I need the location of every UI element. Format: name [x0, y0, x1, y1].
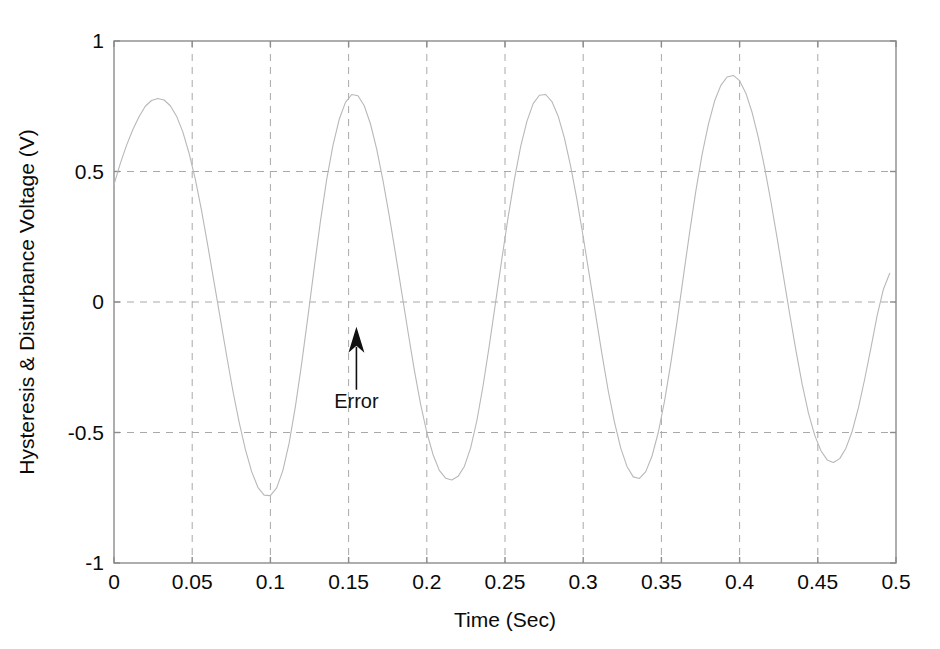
x-tick-labels: 00.050.10.150.20.250.30.350.40.450.5: [108, 570, 910, 593]
x-tick-label: 0.1: [256, 570, 285, 593]
x-tick-label: 0.35: [641, 570, 682, 593]
x-tick-label: 0.45: [797, 570, 838, 593]
y-tick-label: 0: [92, 290, 104, 313]
x-tick-label: 0.05: [172, 570, 213, 593]
x-axis-title: Time (Sec): [454, 608, 556, 631]
y-tick-label: 1: [92, 29, 104, 52]
y-tick-label: 0.5: [75, 160, 104, 183]
annotation-label-error: Error: [334, 390, 379, 412]
x-tick-label: 0.3: [569, 570, 598, 593]
y-tick-label: -1: [85, 551, 104, 574]
y-tick-labels: -1-0.500.51: [68, 29, 104, 574]
x-tick-label: 0.15: [328, 570, 369, 593]
y-tick-label: -0.5: [68, 421, 104, 444]
chart-page: 00.050.10.150.20.250.30.350.40.450.5 -1-…: [0, 0, 940, 649]
waveform-chart: 00.050.10.150.20.250.30.350.40.450.5 -1-…: [0, 0, 940, 649]
x-tick-label: 0.5: [881, 570, 910, 593]
x-tick-label: 0.4: [725, 570, 755, 593]
x-tick-label: 0.25: [485, 570, 526, 593]
x-tick-label: 0: [108, 570, 120, 593]
x-tick-label: 0.2: [412, 570, 441, 593]
y-axis-title: Hysteresis & Disturbance Voltage (V): [15, 129, 38, 474]
